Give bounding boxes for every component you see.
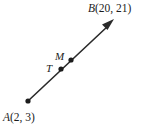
point-dot-t bbox=[58, 66, 63, 71]
point-dot-a bbox=[25, 98, 30, 103]
point-label-a: A(2, 3) bbox=[3, 112, 35, 124]
point-label-m: M bbox=[55, 51, 64, 62]
point-dot-m bbox=[68, 57, 73, 62]
geometry-figure: B(20, 21) A(2, 3) M T bbox=[0, 0, 151, 131]
ray-arrowhead-icon bbox=[102, 19, 114, 30]
point-label-t-letter: T bbox=[46, 62, 52, 74]
point-label-b-letter: B bbox=[88, 2, 95, 14]
point-label-a-coords: (2, 3) bbox=[10, 111, 35, 123]
point-label-a-letter: A bbox=[3, 111, 10, 123]
point-label-b: B(20, 21) bbox=[88, 3, 131, 15]
point-label-b-coords: (20, 21) bbox=[95, 2, 131, 14]
point-label-t: T bbox=[46, 63, 52, 74]
ray-line bbox=[28, 26, 108, 101]
point-label-m-letter: M bbox=[55, 50, 64, 62]
